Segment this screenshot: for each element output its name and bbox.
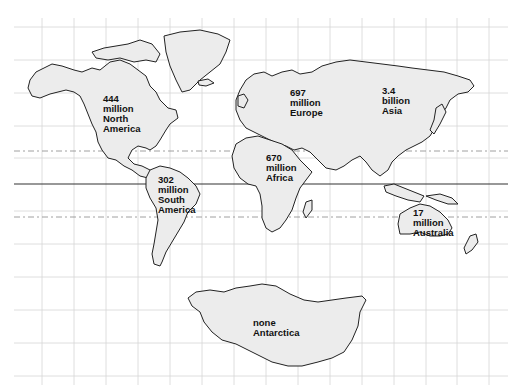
- madagascar: [303, 200, 312, 218]
- new-guinea: [426, 194, 458, 204]
- label-australia: 17 million Australia: [413, 208, 454, 238]
- continent-name: Antarctica: [253, 328, 299, 338]
- continent-name: Africa: [266, 173, 297, 183]
- continent-name-line2: America: [103, 124, 141, 134]
- new-zealand: [464, 234, 478, 254]
- continent-name: Asia: [382, 106, 410, 116]
- label-asia: 3.4 billion Asia: [382, 86, 410, 116]
- continent-name: Europe: [290, 108, 323, 118]
- continent-name-line2: America: [158, 205, 196, 215]
- continent-name: Australia: [413, 228, 454, 238]
- southeast-asia-islands: [384, 184, 424, 202]
- greenland: [164, 30, 230, 92]
- label-south-america: 302 million South America: [158, 175, 196, 215]
- label-africa: 670 million Africa: [266, 153, 297, 183]
- label-north-america: 444 million North America: [103, 94, 141, 134]
- iceland: [198, 79, 214, 86]
- label-antarctica: none Antarctica: [253, 318, 299, 338]
- label-europe: 697 million Europe: [290, 88, 323, 118]
- arctic-islands: [92, 40, 160, 62]
